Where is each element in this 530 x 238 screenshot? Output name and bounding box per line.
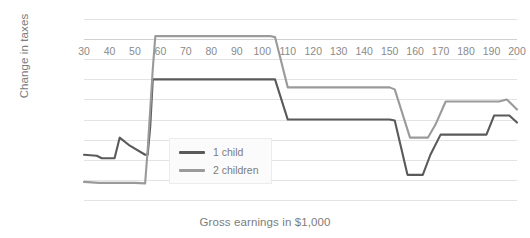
legend-label-1-child: 1 child	[213, 146, 243, 158]
x-axis-title: Gross earnings in $1,000	[0, 216, 530, 228]
plot-area: 2000-200-400-600-800-1,000-1,200-1,400-1…	[84, 19, 517, 200]
series-lines	[84, 19, 517, 200]
chart-container: Change in taxes 2000-200-400-600-800-1,0…	[0, 0, 530, 238]
legend-swatch-1-child	[179, 151, 205, 154]
legend-swatch-2-children	[179, 169, 205, 172]
legend-label-2-children: 2 children	[213, 164, 259, 176]
legend-item-1-child[interactable]: 1 child	[179, 146, 259, 158]
legend-item-2-children[interactable]: 2 children	[179, 164, 259, 176]
chart-legend: 1 child 2 children	[169, 138, 272, 184]
series-line	[84, 36, 517, 183]
gridline-y	[84, 200, 517, 201]
y-axis-title: Change in taxes	[18, 0, 30, 116]
